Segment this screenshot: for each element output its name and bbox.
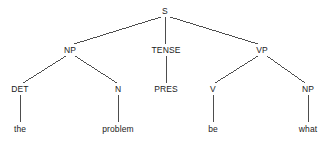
tree-node-np2: NP [302,85,314,94]
tree-leaf-the: the [14,125,26,134]
tree-node-np1: NP [64,46,76,55]
tree-edge-s-to-vp [170,17,258,44]
tree-edge-vp-to-v [215,56,258,83]
tree-node-tense: TENSE [152,46,181,55]
tree-edge-s-to-tense [165,17,166,44]
tree-node-pres: PRES [154,85,178,94]
tree-edge-s-to-np1 [74,17,161,44]
tree-node-v: V [210,85,216,94]
tree-edge-vp-to-np2 [267,56,305,83]
tree-leaf-what: what [299,125,317,134]
tree-edge-layer [0,0,332,142]
tree-edge-np1-to-det [23,56,66,83]
tree-node-vp: VP [256,46,268,55]
tree-edge-np1-to-n [75,56,117,83]
syntax-tree-figure: SNPTENSEVPDETNPRESVNPtheproblembewhat [0,0,332,142]
tree-leaf-problem: problem [102,125,133,134]
tree-node-s: S [162,7,168,16]
tree-node-n: N [115,85,121,94]
tree-node-det: DET [11,85,28,94]
tree-leaf-be: be [208,125,218,134]
